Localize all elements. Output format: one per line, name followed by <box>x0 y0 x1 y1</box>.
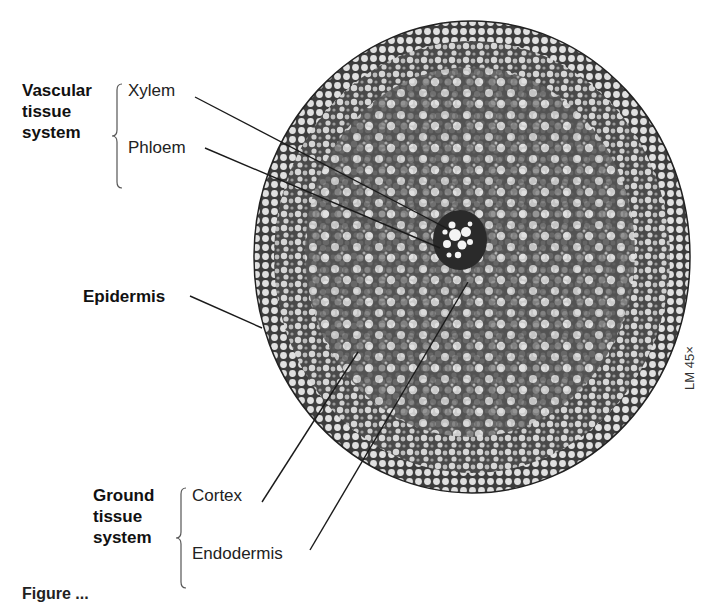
epidermis-label: Epidermis <box>83 286 165 307</box>
title-line: Ground <box>93 485 154 506</box>
title-line: system <box>22 122 92 143</box>
vascular-cylinder <box>433 210 487 270</box>
title-line: tissue <box>22 101 92 122</box>
vascular-tissue-system-title: Vascular tissue system <box>22 80 92 143</box>
endodermis-label: Endodermis <box>192 543 283 564</box>
ground-tissue-system-title: Ground tissue system <box>93 485 154 548</box>
title-line: Vascular <box>22 80 92 101</box>
phloem-label: Phloem <box>128 137 186 158</box>
xylem-label: Xylem <box>128 80 175 101</box>
vascular-brace <box>112 84 122 188</box>
ground-brace <box>176 488 186 588</box>
title-line: tissue <box>93 506 154 527</box>
title-line: system <box>93 527 154 548</box>
magnification-label: LM 45× <box>682 346 697 390</box>
figure-caption: Figure ... <box>22 585 89 603</box>
cortex-label: Cortex <box>192 485 242 506</box>
epidermis-leader-line <box>190 296 262 328</box>
